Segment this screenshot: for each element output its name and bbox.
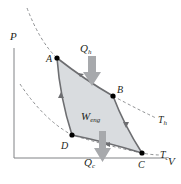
point-c	[139, 150, 144, 155]
point-a	[54, 55, 59, 60]
point-b	[110, 93, 115, 98]
heat-in-label: Qh	[80, 42, 92, 56]
point-a-label: A	[45, 53, 53, 64]
hot-isotherm-label: Th	[158, 114, 168, 127]
point-d-label: D	[60, 140, 69, 151]
point-c-label: C	[138, 159, 145, 170]
v-axis-label: V	[168, 155, 176, 167]
p-axis-label: P	[9, 30, 17, 42]
point-b-label: B	[117, 84, 123, 95]
point-d	[69, 132, 74, 137]
cold-isotherm-label: Tc	[160, 149, 170, 162]
carnot-pv-diagram: P V A B C D Qh Qc Weng Th Tc	[0, 0, 181, 184]
